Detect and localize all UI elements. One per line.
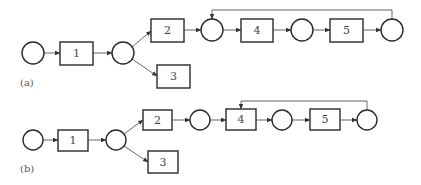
state-node [201, 19, 223, 41]
panel-label-b: (b) [20, 163, 34, 174]
edge-b-c2-b3 [124, 146, 148, 162]
state-node [112, 42, 134, 64]
panel-b: 1 2 3 4 5 (b) [20, 101, 377, 174]
edge-a-c2-b3 [132, 59, 157, 76]
state-node [190, 110, 210, 130]
task-label: 2 [154, 114, 161, 127]
state-node [357, 110, 377, 130]
feedback-edge-b [241, 101, 367, 110]
task-label: 3 [170, 70, 177, 83]
task-label: 3 [160, 156, 167, 169]
state-node [106, 130, 126, 150]
process-diagram: 1 2 3 4 5 (a) 1 2 3 [0, 0, 421, 185]
feedback-edge-a [212, 10, 392, 19]
state-node [291, 19, 313, 41]
task-label: 2 [164, 24, 171, 37]
edge-b-c2-b2 [124, 120, 143, 134]
task-label: 5 [343, 24, 350, 37]
task-label: 5 [322, 113, 329, 126]
task-label: 1 [73, 47, 80, 60]
panel-a: 1 2 3 4 5 (a) [20, 10, 403, 88]
task-label: 4 [238, 113, 245, 126]
state-node [22, 42, 44, 64]
state-node [23, 130, 43, 150]
task-label: 1 [70, 134, 77, 147]
state-node [272, 110, 292, 130]
edge-a-c2-b2 [132, 31, 151, 47]
state-node [381, 19, 403, 41]
task-label: 4 [254, 24, 261, 37]
panel-label-a: (a) [20, 77, 34, 88]
